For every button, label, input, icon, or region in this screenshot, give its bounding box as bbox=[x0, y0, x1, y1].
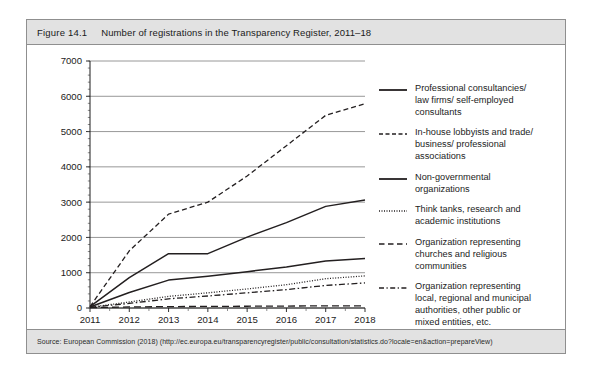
chart-plot-area: 0100020003000400050006000700020112012201… bbox=[27, 45, 565, 329]
chart-legend: Professional consultancies/ law firms/ s… bbox=[379, 83, 569, 338]
legend-item-label: Professional consultancies/ law firms/ s… bbox=[415, 83, 526, 118]
legend-item: Professional consultancies/ law firms/ s… bbox=[379, 83, 569, 118]
dashdot-line-swatch bbox=[379, 281, 407, 294]
y-axis-tick-label: 5000 bbox=[61, 126, 82, 137]
solid-line-swatch bbox=[379, 83, 407, 96]
y-axis-tick-label: 2000 bbox=[61, 232, 82, 243]
source-caption: Source: European Commission (2018) (http… bbox=[37, 338, 493, 345]
legend-item: Organization representing local, regiona… bbox=[379, 281, 569, 328]
series-line-5 bbox=[90, 283, 365, 307]
legend-item: In-house lobbyists and trade/ business/ … bbox=[379, 127, 569, 162]
y-axis-tick-label: 0 bbox=[77, 302, 82, 313]
legend-item-label: Organization representing local, regiona… bbox=[415, 281, 531, 328]
series-line-2 bbox=[90, 259, 365, 307]
legend-item: Non-governmental organizations bbox=[379, 172, 569, 196]
y-axis-tick-label: 4000 bbox=[61, 161, 82, 172]
x-axis-tick-label: 2015 bbox=[236, 314, 257, 325]
figure-title: Number of registrations in the Transpare… bbox=[101, 27, 371, 38]
x-axis-tick-label: 2016 bbox=[276, 314, 297, 325]
legend-item-label: In-house lobbyists and trade/ business/ … bbox=[415, 127, 533, 162]
figure-footer: Source: European Commission (2018) (http… bbox=[27, 329, 565, 353]
y-axis-tick-label: 1000 bbox=[61, 267, 82, 278]
longdash-line-swatch bbox=[379, 237, 407, 250]
legend-item-label: Organization representing churches and r… bbox=[415, 237, 521, 272]
dashed-line-swatch bbox=[379, 127, 407, 140]
x-axis-tick-label: 2012 bbox=[119, 314, 140, 325]
series-line-4 bbox=[90, 306, 365, 308]
legend-item-label: Think tanks, research and academic insti… bbox=[415, 204, 521, 228]
legend-item: Think tanks, research and academic insti… bbox=[379, 204, 569, 228]
figure-number: Figure 14.1 bbox=[37, 27, 87, 38]
y-axis-tick-label: 6000 bbox=[61, 91, 82, 102]
x-axis-tick-label: 2011 bbox=[80, 314, 101, 325]
x-axis-tick-label: 2018 bbox=[354, 314, 375, 325]
legend-item-label: Non-governmental organizations bbox=[415, 172, 491, 196]
x-axis-tick-label: 2013 bbox=[158, 314, 179, 325]
figure-container: Figure 14.1 Number of registrations in t… bbox=[26, 19, 566, 354]
x-axis-tick-label: 2017 bbox=[315, 314, 336, 325]
y-axis-tick-label: 3000 bbox=[61, 197, 82, 208]
dotted-line-swatch bbox=[379, 204, 407, 217]
legend-item: Organization representing churches and r… bbox=[379, 237, 569, 272]
solid-line-swatch bbox=[379, 172, 407, 185]
x-axis-tick-label: 2014 bbox=[197, 314, 219, 325]
y-axis-tick-label: 7000 bbox=[61, 55, 82, 66]
figure-header: Figure 14.1 Number of registrations in t… bbox=[27, 20, 565, 45]
